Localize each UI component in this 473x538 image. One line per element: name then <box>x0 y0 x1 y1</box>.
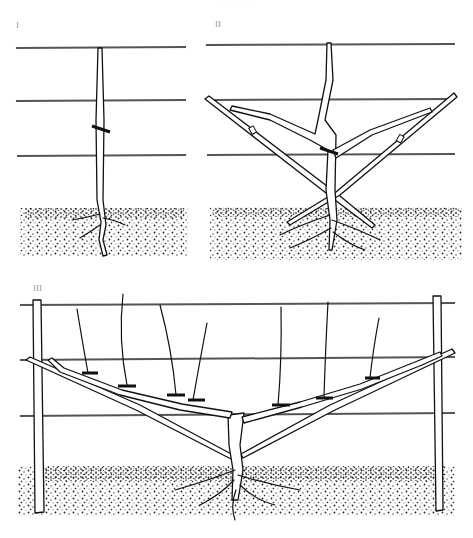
panel-3-drawing <box>18 294 455 520</box>
vine-training-illustration <box>0 0 473 538</box>
trellis-wire <box>212 99 455 100</box>
trellis-post-left <box>33 300 44 513</box>
shoot <box>121 294 127 385</box>
vine-arm-right <box>333 108 432 158</box>
shoot <box>193 323 207 400</box>
shoot <box>278 307 281 405</box>
shoot <box>77 309 88 373</box>
panel-1-drawing <box>16 47 188 256</box>
shoot <box>324 302 328 398</box>
shoot <box>160 305 176 395</box>
shoot <box>370 318 379 378</box>
trellis-wire <box>20 303 455 305</box>
panel-2-drawing <box>205 43 462 260</box>
